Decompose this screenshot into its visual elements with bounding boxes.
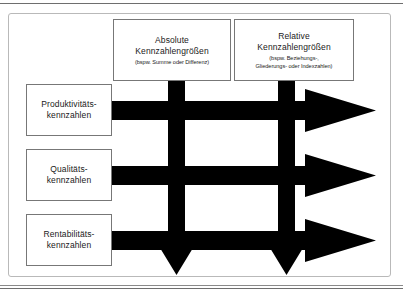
column-head-relative-subtitle-line2: Gliederungs- oder Indexzahlen) [256,63,333,70]
row-head-rentabilitaet-line1: Rentabilitäts- [43,229,94,240]
row-head-produktivitaet-line2: kennzahlen [47,110,91,121]
column-head-relative-title-line1: Relative [278,31,310,42]
page-rule-bottom-upper [0,285,403,286]
row-head-produktivitaet-line1: Produktivitäts- [41,99,96,110]
row-head-qualitaet-line2: kennzahlen [47,175,91,186]
page-rule-bottom-lower [0,288,403,289]
column-head-absolute[interactable]: Absolute Kennzahlengrößen (bspw. Summe o… [113,19,231,81]
row-head-qualitaet-line1: Qualitäts- [50,164,87,175]
column-head-absolute-title-line1: Absolute [155,35,189,46]
column-head-relative-subtitle-line1: (bspw. Beziehungs-, [269,55,318,62]
row-head-rentabilitaet-line2: kennzahlen [47,240,91,251]
page-rule-top [0,3,403,4]
row-head-produktivitaet[interactable]: Produktivitäts- kennzahlen [26,84,112,136]
column-head-absolute-subtitle-line1: (bspw. Summe oder Differenz) [135,59,209,66]
column-head-relative[interactable]: Relative Kennzahlengrößen (bspw. Beziehu… [234,19,354,81]
column-head-absolute-title-line2: Kennzahlengrößen [135,46,208,57]
row-head-rentabilitaet[interactable]: Rentabilitäts- kennzahlen [26,214,112,266]
row-head-qualitaet[interactable]: Qualitäts- kennzahlen [26,149,112,201]
column-head-relative-title-line2: Kennzahlengrößen [257,42,330,53]
